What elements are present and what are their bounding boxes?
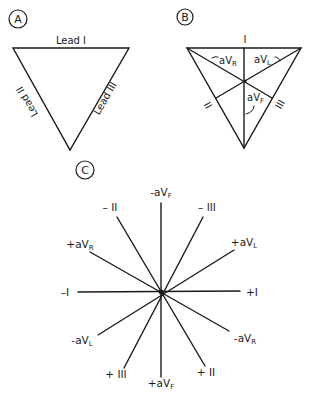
centroid-dot [243,79,246,82]
lead-i-label: Lead I [56,35,86,46]
label-minus-iii: – III [198,201,216,213]
avl-label-group: aVL [254,54,280,67]
label-minus-avf: -aVF [150,186,171,200]
side-ii-label: II [202,100,214,111]
axis-iii [124,217,203,368]
label-plus-avf: +aVF [148,377,174,391]
avf-label: aVF [247,92,264,105]
panel-c-badge: C [81,164,89,177]
avr-label: aVR [219,55,237,68]
side-i-label: I [244,34,247,45]
avr-label-group: aVR [212,55,237,68]
label-minus-ii: – II [103,201,118,213]
origin-dot [159,290,164,295]
side-iii-label: III [273,98,287,111]
panel-b: B I II III aVR aVL aVF [177,9,301,148]
label-minus-avl: -aVL [71,334,92,348]
label-plus-ii: + II [197,366,215,378]
label-plus-i: +I [246,286,258,298]
label-minus-i: –I [61,286,69,298]
ecg-lead-diagram: A Lead I Lead II Lead III B I II III aVR… [0,0,309,398]
panel-b-badge: B [181,11,189,24]
label-plus-avr: +aVR [66,238,93,252]
panel-c: C -aVF – II – III +aVR +aVL –I +I -aVL -… [61,161,258,391]
label-minus-avr: -aVR [234,332,256,346]
avf-label-group: aVF [246,92,264,114]
panel-a-badge: A [14,13,22,26]
avl-label: aVL [254,54,271,67]
lead-iii-label: Lead III [91,80,119,117]
label-plus-iii: + III [105,368,126,380]
label-plus-avl: +aVL [231,236,257,250]
panel-a: A Lead I Lead II Lead III [9,10,129,150]
